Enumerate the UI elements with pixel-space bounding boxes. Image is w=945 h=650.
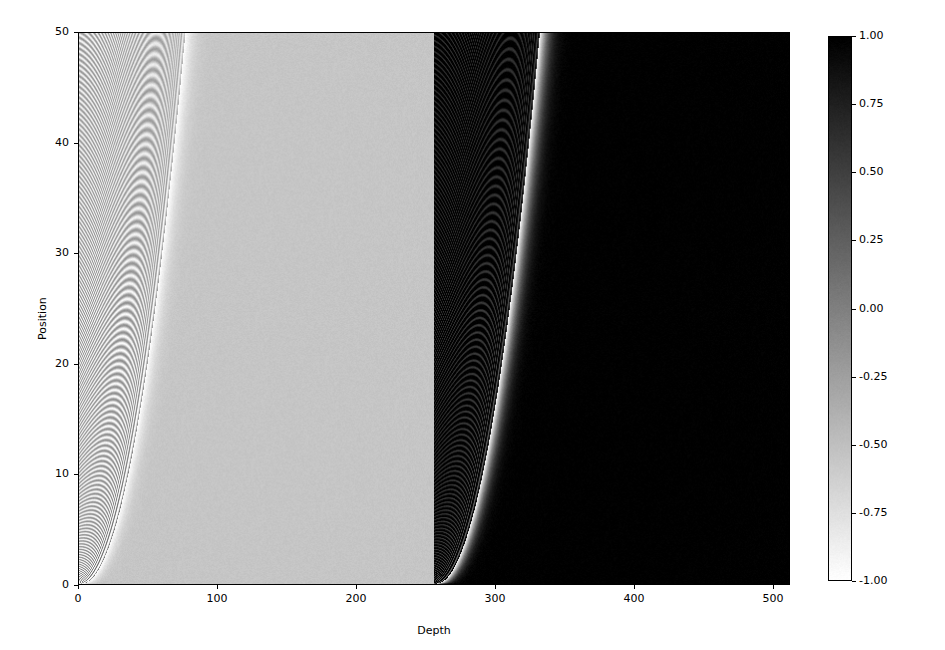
y-tick-label: 30 (36, 247, 69, 258)
x-tick-label: 0 (58, 593, 98, 604)
heatmap-image (79, 33, 789, 584)
colorbar-tick-label: 0.75 (859, 98, 884, 109)
colorbar-tick-mark (852, 36, 856, 37)
y-tick-mark (74, 32, 78, 33)
colorbar-tick-label: -0.50 (859, 439, 887, 450)
y-axis-title: Position (36, 297, 49, 340)
y-tick-mark (74, 474, 78, 475)
y-tick-label: 10 (36, 468, 69, 479)
x-tick-mark (356, 585, 357, 589)
y-tick-label: 40 (36, 137, 69, 148)
colorbar-tick-mark (852, 104, 856, 105)
x-tick-label: 100 (197, 593, 237, 604)
heatmap-axes (78, 32, 790, 585)
colorbar-gradient (829, 37, 851, 580)
figure-canvas: 01020304050 0100200300400500 Position De… (0, 0, 945, 650)
y-tick-label: 50 (36, 26, 69, 37)
x-axis-title: Depth (0, 624, 868, 637)
y-tick-mark (74, 143, 78, 144)
colorbar-tick-label: -0.25 (859, 371, 887, 382)
x-tick-mark (217, 585, 218, 589)
x-tick-mark (78, 585, 79, 589)
colorbar-tick-mark (852, 172, 856, 173)
colorbar-tick-label: 0.50 (859, 166, 884, 177)
x-tick-label: 200 (336, 593, 376, 604)
colorbar-tick-mark (852, 445, 856, 446)
y-tick-mark (74, 253, 78, 254)
colorbar-tick-label: 0.25 (859, 234, 884, 245)
colorbar-tick-label: 0.00 (859, 303, 884, 314)
x-tick-label: 300 (475, 593, 515, 604)
y-tick-label: 0 (36, 579, 69, 590)
x-tick-label: 400 (614, 593, 654, 604)
colorbar-tick-label: -1.00 (859, 575, 887, 586)
colorbar-tick-mark (852, 513, 856, 514)
colorbar-tick-mark (852, 377, 856, 378)
x-tick-label: 500 (753, 593, 793, 604)
x-tick-mark (773, 585, 774, 589)
colorbar-tick-mark (852, 309, 856, 310)
colorbar-tick-label: 1.00 (859, 30, 884, 41)
colorbar-tick-mark (852, 581, 856, 582)
x-tick-mark (634, 585, 635, 589)
colorbar-tick-label: -0.75 (859, 507, 887, 518)
colorbar-tick-mark (852, 240, 856, 241)
x-tick-mark (495, 585, 496, 589)
y-tick-mark (74, 364, 78, 365)
y-tick-label: 20 (36, 358, 69, 369)
colorbar-axes (828, 36, 852, 581)
